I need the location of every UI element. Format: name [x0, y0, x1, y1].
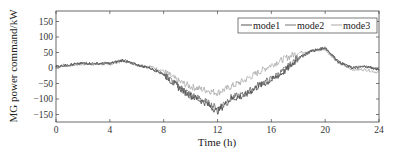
plot-lines [56, 47, 379, 114]
x-tick-label: 4 [107, 125, 112, 135]
y-tick-label: −50 [38, 79, 53, 89]
y-tick-label: 150 [39, 17, 54, 27]
x-tick-label: 8 [161, 125, 166, 135]
y-tick-label: 0 [48, 63, 53, 73]
y-tick-label: −150 [33, 110, 53, 120]
x-tick-label: 20 [320, 125, 330, 135]
series-line-mode3 [56, 49, 379, 96]
x-tick-label: 16 [267, 125, 277, 135]
series-line-mode2 [56, 47, 379, 110]
legend-label-mode3: mode3 [343, 20, 370, 31]
x-axis-title: Time (h) [198, 136, 237, 149]
legend: mode1 mode2 mode3 [238, 18, 377, 33]
x-tick-label: 0 [54, 125, 59, 135]
x-tick-label: 24 [374, 125, 384, 135]
y-tick-label: 50 [44, 48, 54, 58]
y-tick-label: 100 [39, 32, 54, 42]
x-tick-label: 12 [213, 125, 223, 135]
line-chart: 04812162024 −150−100−50050100150 Time (h… [0, 0, 404, 156]
y-axis-title: MG power command/kW [7, 9, 19, 123]
legend-label-mode2: mode2 [297, 20, 324, 31]
y-tick-label: −100 [33, 94, 53, 104]
series-line-mode1 [56, 47, 379, 114]
legend-label-mode1: mode1 [253, 20, 280, 31]
